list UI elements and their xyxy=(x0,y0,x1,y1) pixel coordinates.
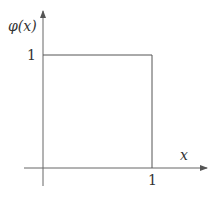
haar-scaling-function-plot: φ(x) 1 x 1 xyxy=(0,0,216,197)
x-tick-label: 1 xyxy=(148,172,157,188)
x-axis-label: x xyxy=(180,147,188,163)
y-tick-label: 1 xyxy=(27,47,36,63)
y-axis-label: φ(x) xyxy=(8,18,37,34)
phi-curve xyxy=(43,55,152,168)
